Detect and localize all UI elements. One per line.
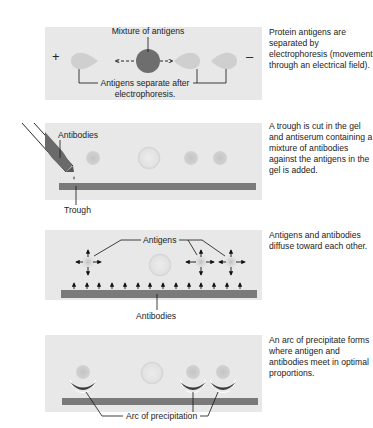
immunoelectrophoresis-diagram: Mixture of antigens + – Antigens separat… <box>0 0 373 428</box>
step-3-caption: Antigens and antibodies diffuse toward e… <box>269 230 373 252</box>
step-2-caption: A trough is cut in the gel and antiserum… <box>269 121 373 176</box>
negative-electrode-label: – <box>246 52 253 62</box>
positive-electrode-label: + <box>52 52 60 62</box>
arc-of-precipitation-label: Arc of precipitation <box>126 411 197 421</box>
antibodies-pipette-label: Antibodies <box>58 130 98 140</box>
antigens-separate-label: Antigens separate after <box>95 78 195 88</box>
antigens-label: Antigens <box>143 235 176 245</box>
step-1-caption: Protein antigens are separated by electr… <box>269 27 373 71</box>
step-4-caption: An arc of precipitate forms where antige… <box>269 335 373 379</box>
panel-4-gel <box>45 335 262 416</box>
trough-label: Trough <box>64 205 91 215</box>
antibodies-label: Antibodies <box>136 311 176 321</box>
mixture-of-antigens-label: Mixture of antigens <box>108 26 188 36</box>
antigens-separate-label-line2: electrophoresis. <box>95 89 195 99</box>
